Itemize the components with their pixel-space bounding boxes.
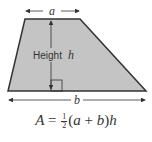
trapezoid-shape	[8, 19, 146, 91]
top-base-label: a	[49, 4, 55, 18]
bottom-base-label: b	[74, 93, 80, 107]
bottom-base-dimension: b	[9, 93, 145, 107]
height-word: Height	[33, 50, 62, 61]
formula-fraction: 1 2	[61, 113, 67, 130]
formula-var-a: a	[73, 112, 81, 128]
fraction-denominator: 2	[61, 122, 67, 130]
formula-plus: +	[81, 112, 97, 128]
height-var: h	[68, 48, 74, 62]
area-formula: A = 1 2 (a + b)h	[0, 112, 152, 130]
formula-area-var: A	[35, 112, 44, 128]
formula-equals: =	[48, 112, 56, 128]
formula-var-h: h	[109, 112, 117, 128]
top-base-dimension: a	[26, 4, 79, 18]
